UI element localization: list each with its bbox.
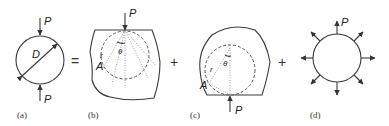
plus-sign: + [278,54,286,70]
caption-c: (c) [190,110,200,120]
angle-arc [117,42,125,43]
force-label: P [129,7,137,19]
angle-label: θ [223,59,228,68]
plus-sign: + [170,54,178,70]
ray-line [125,30,156,66]
radial-arrow [311,75,320,84]
caption-d: (d) [310,110,321,120]
panel-a: P P D (a) [16,15,64,120]
equals-sign: = [71,53,79,69]
point-label: A [199,79,207,91]
point-label: A [95,60,103,72]
diameter-label: D [32,48,40,60]
panel-d: P (d) [301,16,375,120]
ray-line [112,30,125,84]
radial-arrow [311,32,320,41]
caption-b: (b) [88,110,99,120]
force-label: P [235,104,243,116]
panel-c: P θ r A (c) [190,27,270,120]
panel-b: P θ r A (b) [88,7,160,120]
force-label: P [341,16,349,28]
caption-a: (a) [17,110,27,120]
radius-label: r [210,65,213,74]
force-label-bottom: P [44,93,52,105]
angle-label: θ [118,47,123,56]
radial-arrow [354,75,363,84]
ray-line [125,30,148,78]
radius-label: r [100,51,103,60]
superposition-diagram: P P D (a) = P θ r A (b) + P θ r A (c) [0,0,389,126]
radial-arrow [354,32,363,41]
force-label-top: P [44,15,52,27]
disc [313,34,361,82]
